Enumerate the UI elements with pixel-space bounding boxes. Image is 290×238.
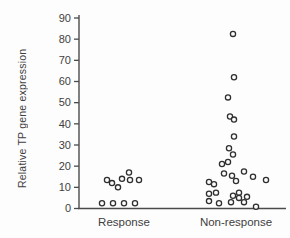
data-point <box>236 195 241 200</box>
data-point <box>231 134 236 139</box>
y-tick-label: 0 <box>65 202 71 214</box>
data-point <box>230 193 235 198</box>
y-tick-label: 10 <box>59 181 71 193</box>
data-point <box>236 190 241 195</box>
data-point <box>119 176 124 181</box>
data-point <box>263 177 268 182</box>
data-point <box>110 201 115 206</box>
x-category-label-response: Response <box>74 216 174 228</box>
y-tick-label: 70 <box>59 54 71 66</box>
data-point <box>206 198 211 203</box>
data-point <box>126 170 131 175</box>
data-point <box>244 194 249 199</box>
data-point <box>233 178 238 183</box>
data-point <box>228 200 233 205</box>
data-point <box>226 146 231 151</box>
data-point <box>250 174 255 179</box>
data-point <box>132 201 137 206</box>
y-tick-label: 30 <box>59 139 71 151</box>
x-category-label-non-response: Non-response <box>186 216 286 228</box>
data-point <box>136 177 141 182</box>
y-tick-label: 90 <box>59 12 71 24</box>
data-point <box>127 177 132 182</box>
data-point <box>109 181 114 186</box>
y-tick-label: 80 <box>59 33 71 45</box>
data-point <box>206 191 211 196</box>
data-point <box>115 185 120 190</box>
data-point <box>229 173 234 178</box>
y-tick-label: 40 <box>59 118 71 130</box>
data-point <box>221 171 226 176</box>
data-point <box>253 204 258 209</box>
scatter-plot: 0102030405060708090 <box>0 0 290 238</box>
data-point <box>99 201 104 206</box>
data-point <box>225 159 230 164</box>
data-point <box>231 75 236 80</box>
data-point <box>241 200 246 205</box>
y-tick-label: 50 <box>59 96 71 108</box>
data-point <box>104 177 109 182</box>
data-point <box>230 31 235 36</box>
y-tick-label: 60 <box>59 75 71 87</box>
data-point <box>121 201 126 206</box>
data-point <box>211 182 216 187</box>
y-tick-label: 20 <box>59 160 71 172</box>
data-point <box>230 152 235 157</box>
data-point <box>219 161 224 166</box>
data-point <box>231 117 236 122</box>
scatter-figure: Relative TP gene expression 010203040506… <box>0 0 290 238</box>
data-point <box>213 190 218 195</box>
data-point <box>225 95 230 100</box>
data-point <box>216 201 221 206</box>
data-point <box>241 169 246 174</box>
